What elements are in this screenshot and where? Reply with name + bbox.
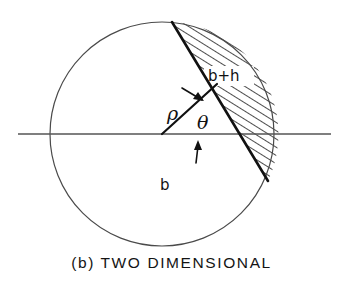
figure-canvas: b+h b ρ θ [0,0,343,282]
angle-arrow-upper [182,88,204,101]
two-dimensional-figure: b+h b ρ θ (b) TWO DIMENSIONAL [0,0,343,282]
hatched-segment [172,22,278,181]
label-radius-rho: ρ [166,102,179,124]
label-hatched-region: b+h [208,67,240,85]
figure-caption: (b) TWO DIMENSIONAL [0,254,343,272]
angle-arrow-lower [194,140,202,163]
label-angle-theta: θ [197,111,209,133]
label-base-region: b [160,176,170,194]
